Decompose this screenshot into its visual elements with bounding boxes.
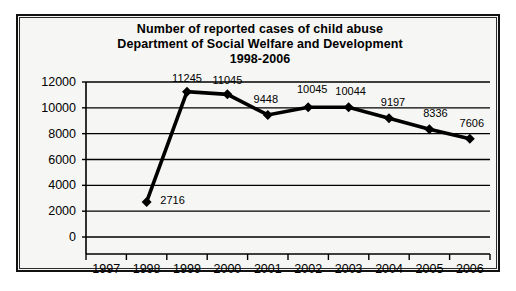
x-axis-tick-label: 1997 [86,262,126,282]
chart-frame: Number of reported cases of child abuse … [16,14,500,272]
x-axis-tick-label: 1998 [126,262,166,282]
data-point-marker [344,102,354,112]
data-point-marker [303,102,313,112]
x-axis-tick-label: 2005 [409,262,449,282]
plot-svg [18,16,502,274]
x-axis-tick-label: 2003 [328,262,368,282]
axis-ticks [82,82,490,260]
x-axis-tick-label: 2000 [207,262,247,282]
gridlines [86,82,490,237]
chart-container: Number of reported cases of child abuse … [0,0,516,291]
plot-wrap: Number of reported cases of child abuse … [18,16,502,274]
x-axis-tick-label: 2001 [248,262,288,282]
data-point-marker [182,87,192,97]
series-markers [142,87,475,207]
x-axis-tick-labels: 1997199819992000200120022003200420052006 [86,262,490,282]
x-axis-tick-label: 1999 [167,262,207,282]
x-axis-tick-label: 2002 [288,262,328,282]
x-axis-tick-label: 2004 [369,262,409,282]
data-point-marker [465,134,475,144]
x-axis-tick-label: 2006 [450,262,490,282]
data-point-marker [384,113,394,123]
data-point-marker [424,124,434,134]
data-point-marker [142,197,152,207]
